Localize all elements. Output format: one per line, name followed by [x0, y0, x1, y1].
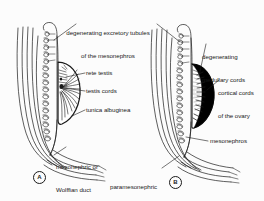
- degenerating-excretory-tubules-line1: degenerating excretory tubules: [56, 29, 160, 37]
- degenerating-medullary-cords-line1: degenerating: [202, 53, 245, 61]
- degenerating-excretory-tubules-label: degenerating excretory tubules of the me…: [56, 14, 160, 75]
- mesonephric-duct-label: mesonephric or Wolffian duct: [56, 148, 98, 201]
- degenerating-excretory-tubules-line2: of the mesonephros: [56, 52, 160, 60]
- panel-letter-b: B: [169, 176, 182, 189]
- tunica-albuginea-label: tunica albuginea: [86, 106, 130, 114]
- panel-letter-a: A: [33, 171, 46, 184]
- mesonephric-duct-line2: Wolffian duct: [56, 186, 98, 194]
- paramesonephric-duct-line1: paramesonephric: [110, 183, 157, 191]
- gonad-differentiation-figure: degenerating excretory tubules of the me…: [0, 0, 264, 201]
- testis-cords-label: testis cords: [86, 87, 117, 95]
- paramesonephric-duct-label: paramesonephric or Müllerian duct: [110, 168, 157, 201]
- cortical-cords-label: cortical cords of the ovary: [218, 74, 254, 135]
- cortical-cords-line1: cortical cords: [218, 89, 254, 97]
- rete-testis-label: rete testis: [86, 69, 112, 77]
- mesonephric-duct-line1: mesonephric or: [56, 163, 98, 171]
- cortical-cords-line2: of the ovary: [218, 112, 254, 120]
- mesonephros-label: mesonephros: [210, 137, 247, 145]
